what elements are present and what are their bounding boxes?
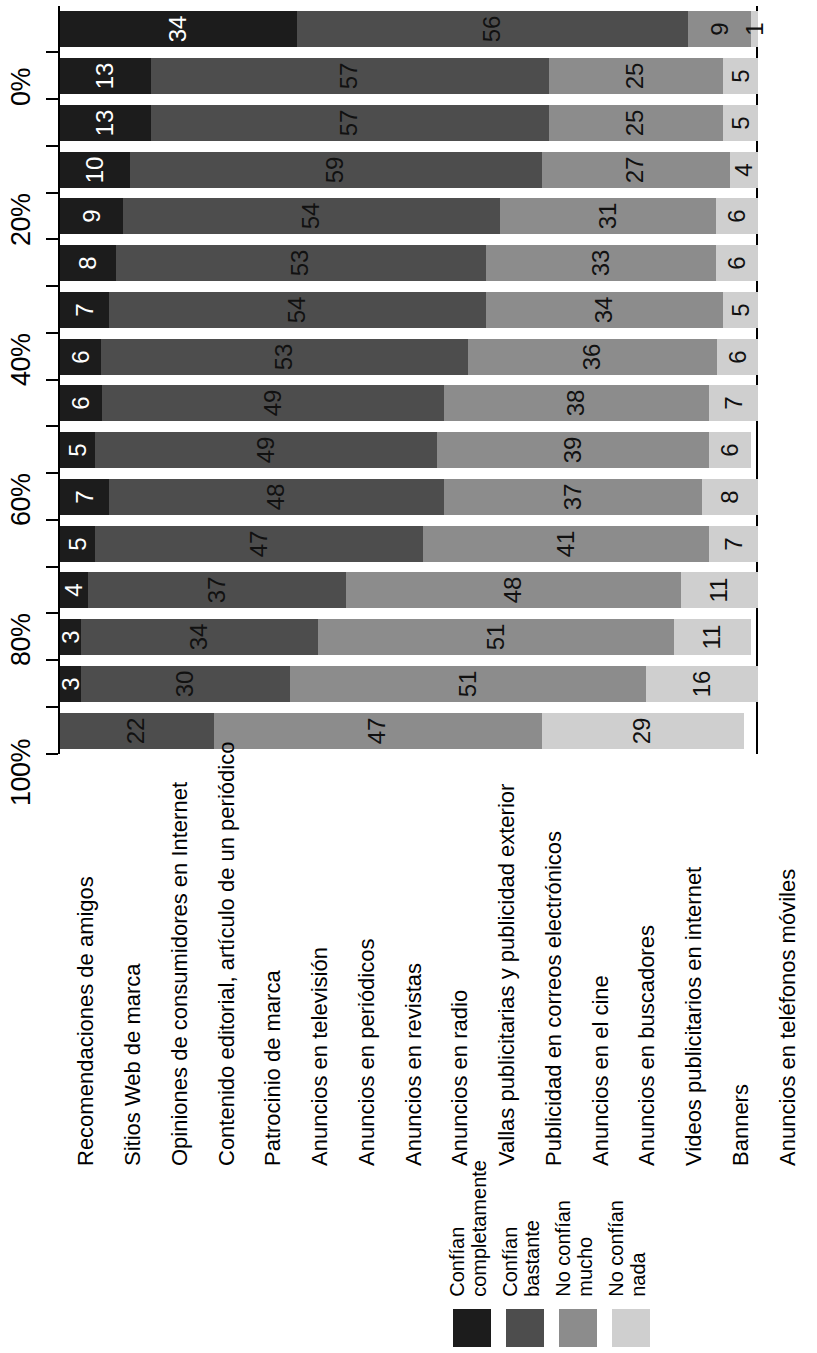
chart-legend: Confían completamenteConfían bastanteNo …: [0, 1175, 817, 1353]
bar-segment-value: 37: [561, 484, 585, 511]
stacked-bar-chart: 0%20%40%60%80%100% 345691135725513572551…: [0, 0, 817, 760]
bar-segment-value: 4: [62, 584, 86, 597]
category-label: Patrocinio de marca: [262, 970, 284, 1166]
legend-swatch: [506, 1309, 544, 1347]
bar-segment: 56: [297, 11, 688, 47]
category-label: Anuncios en radio: [449, 990, 471, 1166]
plot-area: 3456911357255135725510592749543168533367…: [58, 6, 758, 754]
bar-segment-value: 31: [596, 203, 620, 230]
bar-segment-value: 54: [285, 297, 309, 324]
bar-segment: 34: [486, 292, 723, 328]
bar-segment: 53: [116, 245, 486, 281]
bar-segment: 37: [444, 479, 702, 515]
bar-segment: 59: [130, 152, 542, 188]
bar-segment: 38: [444, 385, 709, 421]
bar-segment: 6: [60, 385, 102, 421]
bar-segment-value: 1: [742, 23, 766, 36]
category-tick: [46, 145, 58, 147]
bar-segment-value: 48: [502, 577, 526, 604]
bar-segment-value: 11: [701, 625, 725, 650]
bar-segment: 29: [542, 713, 744, 749]
category-tick: [46, 566, 58, 568]
bar-row: 653366: [60, 339, 758, 375]
bar-segment-value: 25: [624, 110, 648, 137]
bar-segment: 4: [730, 152, 758, 188]
bar-row: 345691: [60, 11, 758, 47]
bar-segment: 16: [646, 666, 758, 702]
bar-segment: 57: [151, 58, 549, 94]
bar-segment: 11: [681, 572, 758, 608]
bar-row: 4374811: [60, 572, 758, 608]
bar-segment: 36: [468, 339, 717, 375]
bar-segment-value: 5: [729, 69, 753, 82]
bar-segment: 51: [318, 619, 674, 655]
bar-segment: 51: [290, 666, 646, 702]
bar-segment-value: 33: [589, 250, 613, 277]
legend-label: No confían nada: [605, 1200, 650, 1297]
bar-segment-value: 7: [722, 397, 746, 410]
bar-segment: 11: [674, 619, 751, 655]
bar-segment: 7: [709, 385, 758, 421]
bar-row: 3305116: [60, 666, 758, 702]
axis-tick-label: 40%: [6, 333, 37, 386]
bar-segment-value: 6: [725, 350, 749, 363]
bar-segment-value: 53: [273, 343, 297, 370]
bar-segment: 25: [549, 58, 724, 94]
bar-segment-value: 8: [76, 256, 100, 269]
category-label: Opiniones de consumidores en Internet: [169, 782, 191, 1166]
bar-segment-value: 30: [174, 671, 198, 698]
bar-row: 1357255: [60, 58, 758, 94]
legend-label: No confían mucho: [552, 1200, 597, 1297]
bar-segment: 30: [81, 666, 290, 702]
bar-segment-value: 27: [624, 156, 648, 183]
bar-segment: 1: [751, 11, 758, 47]
axis-tick-label: 20%: [6, 193, 37, 246]
category-label: Contenido editorial, artículo de un peri…: [216, 742, 238, 1166]
bar-segment-value: 57: [338, 110, 362, 137]
bar-segment: 54: [109, 292, 486, 328]
bar-segment: 7: [709, 526, 758, 562]
bar-segment-value: 34: [592, 297, 616, 324]
bar-segment: 41: [423, 526, 709, 562]
axis-tick-label: 0%: [6, 68, 37, 106]
category-tick: [46, 612, 58, 614]
bar-row: 1357255: [60, 105, 758, 141]
bar-segment: 7: [60, 479, 109, 515]
bar-segment: 27: [542, 152, 730, 188]
bar-segment-value: 51: [484, 624, 508, 651]
bar-row: 754345: [60, 292, 758, 328]
bar-segment: 34: [81, 619, 318, 655]
category-tick: [46, 379, 58, 381]
bar-segment-value: 9: [79, 210, 103, 223]
bar-segment-value: 13: [93, 110, 117, 137]
bar-segment-value: 48: [264, 484, 288, 511]
bar-segment-value: 4: [732, 163, 756, 176]
bar-segment-value: 22: [125, 717, 149, 744]
bar-segment: 4: [60, 572, 88, 608]
category-tick: [46, 238, 58, 240]
category-tick: [46, 706, 58, 708]
bar-row: 3345111: [60, 619, 758, 655]
category-label: Anuncios en televisión: [309, 947, 331, 1166]
category-tick: [46, 332, 58, 334]
bar-segment-value: 54: [299, 203, 323, 230]
bar-segment-value: 6: [69, 397, 93, 410]
bar-segment: 53: [101, 339, 467, 375]
bar-segment: 47: [214, 713, 542, 749]
bar-segment-value: 34: [188, 624, 212, 651]
category-label: Vallas publicitarias y publicidad exteri…: [496, 784, 518, 1166]
legend-swatch: [612, 1309, 650, 1347]
bar-segment: 13: [60, 105, 151, 141]
category-tick: [46, 51, 58, 53]
bar-segment: 48: [346, 572, 681, 608]
bar-segment: 8: [702, 479, 758, 515]
bar-segment: 33: [486, 245, 716, 281]
bar-segment-value: 8: [718, 490, 742, 503]
bar-segment: 3: [60, 666, 81, 702]
bar-segment-value: 11: [708, 578, 732, 603]
bar-segment-value: 6: [725, 256, 749, 269]
category-tick: [46, 472, 58, 474]
bar-segment: 48: [109, 479, 444, 515]
bar-segment-value: 7: [72, 303, 96, 316]
category-tick: [46, 659, 58, 661]
